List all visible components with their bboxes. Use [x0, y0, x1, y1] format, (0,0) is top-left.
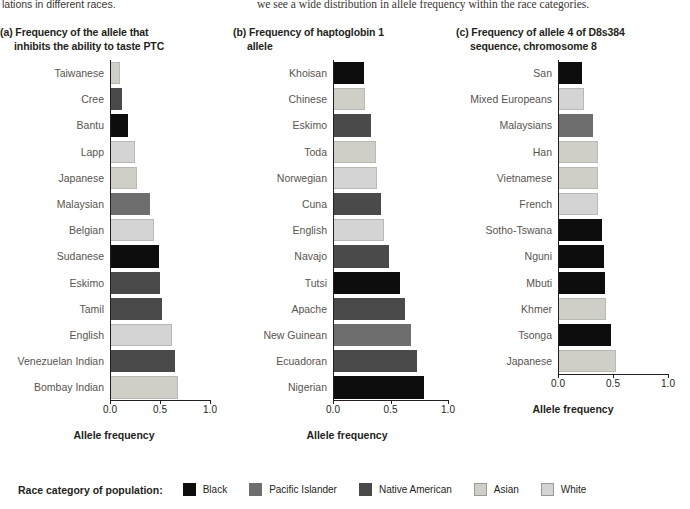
y-axis-line: [333, 60, 334, 401]
legend-item: White: [541, 483, 587, 496]
bar-track: [333, 112, 448, 138]
bar-row: Venezuelan Indian: [0, 348, 228, 374]
bar-row: Tsonga: [456, 322, 690, 348]
chart-a-axis-title: Allele frequency: [0, 429, 228, 441]
bar-track: [110, 322, 210, 348]
x-axis-tick-label: 0.0: [551, 378, 565, 389]
bar-row: Japanese: [0, 165, 228, 191]
bar-track: [110, 374, 210, 400]
chart-a-title-line2: inhibits the ability to taste PTC: [0, 40, 228, 54]
bar-label: Belgian: [0, 224, 110, 236]
bar-label: Eskimo: [233, 119, 333, 131]
bar-label: Tutsi: [233, 277, 333, 289]
legend-swatch-black: [183, 483, 196, 496]
bar: [558, 219, 602, 241]
legend-item: Black: [183, 483, 227, 496]
legend-label: White: [561, 484, 587, 495]
bar-label: Malaysian: [0, 198, 110, 210]
x-axis-tick-label: 0.5: [606, 378, 620, 389]
bar-track: [333, 322, 448, 348]
bar: [558, 167, 598, 189]
bar-track: [110, 86, 210, 112]
bar-track: [110, 348, 210, 374]
bar-track: [110, 139, 210, 165]
chart-b-title-line2: allele: [233, 40, 461, 54]
bar-track: [333, 86, 448, 112]
chart-a-title: (a) Frequency of the allele that inhibit…: [0, 26, 228, 53]
chart-c-title-line2: sequence, chromosome 8: [456, 40, 690, 54]
bar-label: Japanese: [456, 355, 558, 367]
bar: [110, 350, 175, 372]
bar-track: [110, 165, 210, 191]
bar: [558, 114, 593, 136]
bar-label: Chinese: [233, 93, 333, 105]
bar: [558, 141, 598, 163]
bar-row: Navajo: [233, 243, 461, 269]
legend-label: Black: [203, 484, 227, 495]
bar-row: Sudanese: [0, 243, 228, 269]
bar: [558, 324, 611, 346]
bar-track: [558, 322, 668, 348]
bar: [333, 167, 377, 189]
bar: [110, 376, 178, 398]
x-axis-tick-label: 1.0: [203, 404, 217, 415]
bar-row: Nguni: [456, 243, 690, 269]
bar-label: Nguni: [456, 250, 558, 262]
bar-track: [333, 243, 448, 269]
bar: [110, 193, 150, 215]
bar-track: [333, 139, 448, 165]
bar-track: [558, 270, 668, 296]
bar-track: [110, 112, 210, 138]
bar-label: English: [233, 224, 333, 236]
bar-row: Apache: [233, 296, 461, 322]
bar-row: Chinese: [233, 86, 461, 112]
legend-label: Asian: [494, 484, 519, 495]
bar-track: [558, 86, 668, 112]
bar-label: Han: [456, 146, 558, 158]
bar-row: San: [456, 60, 690, 86]
bar-track: [333, 60, 448, 86]
bar: [333, 193, 381, 215]
chart-b-axis: 0.00.51.0: [233, 400, 461, 426]
bar-label: Mixed Europeans: [456, 93, 558, 105]
bar-row: Khoisan: [233, 60, 461, 86]
bar: [333, 298, 405, 320]
bar: [333, 376, 424, 398]
chart-b-plot: KhoisanChineseEskimoTodaNorwegianCunaEng…: [233, 60, 461, 441]
bar: [110, 324, 172, 346]
bar-track: [558, 348, 668, 374]
y-axis-line: [110, 60, 111, 401]
page-top-text: lations in different races. we see a wid…: [0, 0, 690, 18]
bar-label: Tsonga: [456, 329, 558, 341]
bar-label: Toda: [233, 146, 333, 158]
bar-row: Malaysians: [456, 112, 690, 138]
legend-items: BlackPacific IslanderNative AmericanAsia…: [183, 483, 609, 496]
chart-b-title-line1: (b) Frequency of haptoglobin 1: [233, 26, 384, 38]
bar: [333, 219, 384, 241]
legend-label: Native American: [379, 484, 452, 495]
bar-track: [558, 243, 668, 269]
bar-track: [333, 348, 448, 374]
chart-c-plot: SanMixed EuropeansMalaysiansHanVietnames…: [456, 60, 690, 415]
bar-row: Lapp: [0, 139, 228, 165]
bar-track: [558, 191, 668, 217]
bar-track: [333, 165, 448, 191]
bar-label: Norwegian: [233, 172, 333, 184]
bar-track: [110, 270, 210, 296]
top-text-right: we see a wide distribution in allele fre…: [257, 0, 589, 10]
bar-track: [333, 217, 448, 243]
bar: [110, 141, 135, 163]
legend: Race category of population: BlackPacifi…: [18, 483, 608, 496]
bar-label: Navajo: [233, 250, 333, 262]
bar-track: [333, 374, 448, 400]
bar-row: New Guinean: [233, 322, 461, 348]
bar-track: [333, 296, 448, 322]
chart-a-title-line1: (a) Frequency of the allele that: [0, 26, 149, 38]
chart-b-rows: KhoisanChineseEskimoTodaNorwegianCunaEng…: [233, 60, 461, 400]
bar-row: Bantu: [0, 112, 228, 138]
bar-row: Taiwanese: [0, 60, 228, 86]
bar-label: Sudanese: [0, 250, 110, 262]
chart-c-rows: SanMixed EuropeansMalaysiansHanVietnames…: [456, 60, 690, 374]
bar: [333, 324, 411, 346]
bar-label: Eskimo: [0, 277, 110, 289]
